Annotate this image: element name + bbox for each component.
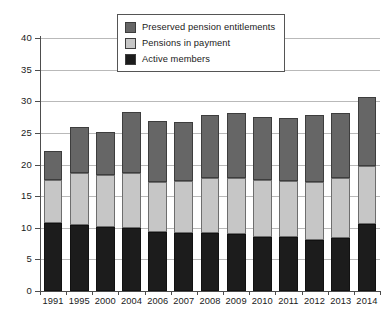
x-axis-tick-label: 2008 <box>197 296 223 306</box>
bar-segment-1995-active-members <box>70 225 89 291</box>
bar-2014 <box>358 38 377 291</box>
bar-segment-2010-active-members <box>253 237 272 291</box>
bar-segment-2014-pensions-in-payment <box>358 166 377 224</box>
bar-segment-2013-preserved-pension-entitlements <box>331 113 350 179</box>
x-tick-mark <box>223 291 224 295</box>
bar-segment-2007-pensions-in-payment <box>174 181 193 233</box>
bar-1995 <box>70 38 89 291</box>
bar-segment-2012-pensions-in-payment <box>305 182 324 240</box>
y-axis-tick-label: 35 <box>6 64 32 75</box>
bar-segment-2008-preserved-pension-entitlements <box>201 115 220 179</box>
bar-2006 <box>148 38 167 291</box>
x-tick-mark <box>197 291 198 295</box>
bar-2000 <box>96 38 115 291</box>
bar-segment-2009-pensions-in-payment <box>227 178 246 234</box>
bar-segment-2000-pensions-in-payment <box>96 175 115 226</box>
x-tick-mark <box>249 291 250 295</box>
x-axis-tick-label: 2011 <box>275 296 301 306</box>
legend-item-label: Preserved pension entitlements <box>142 22 275 32</box>
bar-segment-2010-preserved-pension-entitlements <box>253 117 272 180</box>
bar-segment-2012-preserved-pension-entitlements <box>305 115 324 182</box>
x-axis-tick-label: 1995 <box>66 296 92 306</box>
bar-segment-1991-active-members <box>44 223 63 291</box>
x-tick-mark <box>275 291 276 295</box>
x-axis-tick-label: 2014 <box>354 296 380 306</box>
x-axis-tick-label: 2013 <box>328 296 354 306</box>
bar-segment-2006-pensions-in-payment <box>148 182 167 232</box>
legend-swatch-preserved <box>125 22 136 33</box>
bar-2012 <box>305 38 324 291</box>
stacked-bar-chart: 0510152025303540 19911995200020042006200… <box>0 0 382 328</box>
bar-segment-2000-active-members <box>96 227 115 292</box>
bar-segment-2004-preserved-pension-entitlements <box>122 112 141 173</box>
y-axis-tick-label: 30 <box>6 95 32 106</box>
legend-item: Active members <box>125 51 278 67</box>
bar-segment-2009-preserved-pension-entitlements <box>227 113 246 178</box>
x-tick-mark <box>380 291 381 295</box>
bar-1991 <box>44 38 63 291</box>
bar-segment-2006-active-members <box>148 232 167 291</box>
bar-segment-2014-active-members <box>358 224 377 291</box>
y-axis-tick-label: 25 <box>6 127 32 138</box>
bar-segment-2010-pensions-in-payment <box>253 180 272 236</box>
bar-segment-2014-preserved-pension-entitlements <box>358 97 377 166</box>
legend-swatch-payment <box>125 38 136 49</box>
y-axis-tick-label: 5 <box>6 253 32 264</box>
bar-segment-2008-pensions-in-payment <box>201 178 220 232</box>
bar-segment-1995-preserved-pension-entitlements <box>70 127 89 173</box>
x-axis-tick-label: 2007 <box>171 296 197 306</box>
bar-segment-2013-pensions-in-payment <box>331 178 350 237</box>
x-tick-mark <box>302 291 303 295</box>
bar-segment-2011-pensions-in-payment <box>279 181 298 237</box>
x-axis-tick-label: 1991 <box>40 296 66 306</box>
x-axis-tick-label: 2000 <box>92 296 118 306</box>
x-axis-tick-label: 2010 <box>249 296 275 306</box>
bar-segment-2011-preserved-pension-entitlements <box>279 118 298 181</box>
x-tick-mark <box>40 291 41 295</box>
x-tick-mark <box>118 291 119 295</box>
bar-segment-2012-active-members <box>305 240 324 291</box>
x-tick-mark <box>66 291 67 295</box>
bar-2004 <box>122 38 141 291</box>
bar-segment-2000-preserved-pension-entitlements <box>96 132 115 176</box>
bar-segment-2004-pensions-in-payment <box>122 173 141 229</box>
bar-segment-2011-active-members <box>279 237 298 291</box>
bar-segment-2004-active-members <box>122 228 141 291</box>
bar-segment-1991-preserved-pension-entitlements <box>44 151 63 180</box>
bar-segment-2013-active-members <box>331 238 350 291</box>
legend-swatch-active <box>125 54 136 65</box>
x-tick-mark <box>354 291 355 295</box>
bar-segment-1995-pensions-in-payment <box>70 173 89 225</box>
bar-segment-2007-active-members <box>174 233 193 291</box>
y-axis-tick-label: 10 <box>6 222 32 233</box>
bars-container <box>40 38 380 291</box>
y-axis-tick-label: 40 <box>6 32 32 43</box>
x-axis-line <box>38 291 381 292</box>
chart-legend: Preserved pension entitlementsPensions i… <box>117 14 285 72</box>
y-axis-tick-label: 0 <box>6 285 32 296</box>
legend-item-label: Active members <box>142 54 210 64</box>
y-axis-tick-label: 20 <box>6 159 32 170</box>
bar-2013 <box>331 38 350 291</box>
x-tick-mark <box>328 291 329 295</box>
bar-2009 <box>227 38 246 291</box>
bar-2010 <box>253 38 272 291</box>
bar-segment-2007-preserved-pension-entitlements <box>174 122 193 181</box>
x-tick-mark <box>171 291 172 295</box>
x-axis-tick-label: 2006 <box>145 296 171 306</box>
x-axis-tick-label: 2004 <box>118 296 144 306</box>
legend-item-label: Pensions in payment <box>142 38 230 48</box>
x-axis-tick-label: 2012 <box>302 296 328 306</box>
bar-2011 <box>279 38 298 291</box>
bar-2008 <box>201 38 220 291</box>
bar-segment-2006-preserved-pension-entitlements <box>148 121 167 182</box>
bar-segment-1991-pensions-in-payment <box>44 180 63 223</box>
x-axis-tick-label: 2009 <box>223 296 249 306</box>
bar-2007 <box>174 38 193 291</box>
legend-item: Pensions in payment <box>125 35 278 51</box>
y-axis-tick-label: 15 <box>6 190 32 201</box>
bar-segment-2008-active-members <box>201 233 220 291</box>
bar-segment-2009-active-members <box>227 234 246 291</box>
x-tick-mark <box>92 291 93 295</box>
x-tick-mark <box>145 291 146 295</box>
